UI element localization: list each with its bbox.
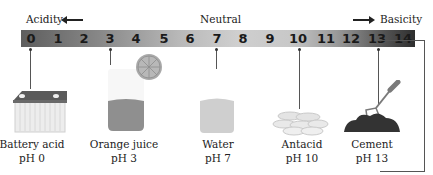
ph-tick: 1: [53, 30, 62, 47]
ph-tick: 8: [238, 30, 247, 47]
ph-tick: 5: [159, 30, 168, 47]
caption-antacid: Antacid pH 10: [282, 137, 323, 165]
arrow-left-icon: [67, 19, 83, 21]
example-name: Orange juice: [90, 137, 158, 151]
neutral-label: Neutral: [200, 13, 241, 25]
ph-tick: 11: [317, 30, 335, 47]
caption-orange-juice: Orange juice pH 3: [90, 137, 158, 165]
ph-tick: 3: [105, 30, 114, 47]
example-ph: pH 7: [202, 151, 234, 165]
pointer-water: [216, 49, 217, 69]
caption-battery-acid: Battery acid pH 0: [0, 137, 65, 165]
ph-tick: 7: [212, 30, 221, 47]
example-ph: pH 10: [282, 151, 323, 165]
battery-icon: [12, 88, 68, 133]
orange-juice-icon: [106, 53, 166, 133]
example-name: Antacid: [282, 137, 323, 151]
acidity-label: Acidity: [26, 13, 63, 25]
arrow-right-icon: [353, 19, 369, 21]
ph-tick: 2: [79, 30, 88, 47]
ph-tick: 0: [26, 30, 35, 47]
ph-tick: 6: [185, 30, 194, 47]
bracket-line: [380, 40, 425, 172]
basicity-label: Basicity: [380, 13, 422, 25]
ph-tick: 10: [289, 30, 307, 47]
antacid-tablets-icon: [272, 108, 330, 136]
ph-tick: 12: [342, 30, 360, 47]
ph-tick: 4: [131, 30, 140, 47]
example-ph: pH 3: [90, 151, 158, 165]
water-glass-icon: [198, 95, 238, 135]
caption-water: Water pH 7: [202, 137, 234, 165]
ph-tick: 9: [265, 30, 274, 47]
example-ph: pH 0: [0, 151, 65, 165]
example-name: Water: [202, 137, 234, 151]
pointer-battery-acid: [30, 49, 31, 89]
pointer-antacid: [299, 49, 300, 109]
example-name: Battery acid: [0, 137, 65, 151]
ph-scale-bar: 0 1 2 3 4 5 6 7 8 9 10 11 12 13 14: [21, 30, 415, 47]
